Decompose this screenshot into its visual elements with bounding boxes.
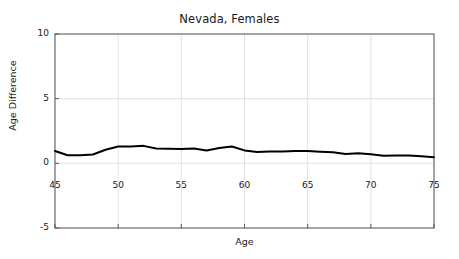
y-tick-label: -5 — [15, 222, 49, 232]
x-tick-label: 45 — [40, 180, 70, 190]
x-tick-label: 60 — [230, 180, 260, 190]
y-tick-label: 10 — [15, 28, 49, 38]
gridlines — [55, 34, 434, 228]
x-tick-label: 55 — [166, 180, 196, 190]
x-tick-label: 65 — [293, 180, 323, 190]
chart-figure: Nevada, Females Age Difference Age -5051… — [0, 0, 459, 259]
plot-area — [0, 0, 459, 259]
x-tick-label: 50 — [103, 180, 133, 190]
x-tick-label: 75 — [419, 180, 449, 190]
y-tick-label: 0 — [15, 157, 49, 167]
x-tick-label: 70 — [356, 180, 386, 190]
y-tick-label: 5 — [15, 93, 49, 103]
